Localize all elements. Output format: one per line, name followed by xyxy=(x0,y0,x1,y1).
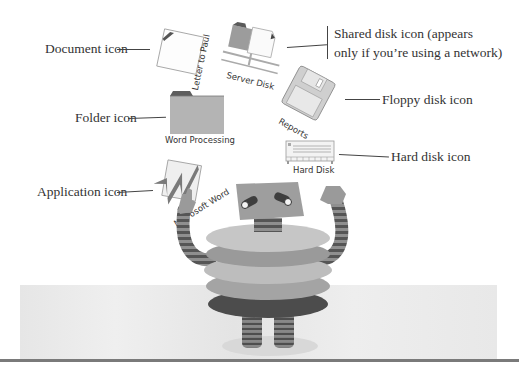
leader-folder xyxy=(128,117,166,119)
leader-document xyxy=(117,49,150,50)
folder-icon-label: Word Processing xyxy=(165,135,235,145)
callout-floppy-disk-icon: Floppy disk icon xyxy=(382,91,473,108)
hard-disk-icon-group[interactable]: Hard Disk xyxy=(285,140,337,168)
folder-icon-group[interactable]: Word Processing xyxy=(168,90,224,138)
hard-disk-icon xyxy=(285,140,337,164)
leader-hard-disk xyxy=(339,154,389,158)
floppy-disk-icon xyxy=(278,66,340,122)
callout-shared-disk-line1: Shared disk icon (appears xyxy=(334,25,473,42)
leader-floppy xyxy=(345,99,380,100)
leader-bracket-shared xyxy=(327,26,328,59)
document-icon-group[interactable]: Letter to Paul xyxy=(152,27,212,83)
callout-application-icon: Application icon xyxy=(37,183,127,200)
callout-document-icon: Document icon xyxy=(45,40,128,57)
callout-shared-disk-line2: only if you’re using a network) xyxy=(334,44,502,61)
robot-mascot-icon xyxy=(170,180,360,360)
hard-disk-icon-label: Hard Disk xyxy=(293,165,334,175)
callout-hard-disk-icon: Hard disk icon xyxy=(391,148,470,165)
folder-icon xyxy=(168,90,224,134)
robot-illustration xyxy=(170,180,360,364)
leader-shared-disk xyxy=(287,44,327,48)
floppy-disk-icon-group[interactable]: Reports xyxy=(278,66,340,126)
shared-disk-icon-group[interactable]: Server Disk xyxy=(222,20,286,84)
